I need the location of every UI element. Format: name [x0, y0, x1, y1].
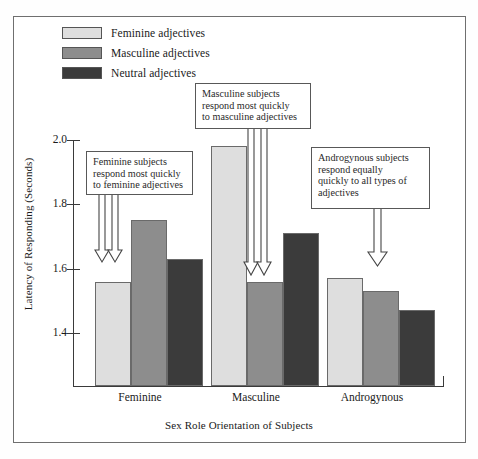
- arrow-feminine-left: [95, 193, 109, 262]
- plot-area: 2.0 1.8 1.6 1.4 Feminine Masculine Andro…: [0, 0, 478, 459]
- arrow-feminine-right: [108, 193, 122, 262]
- arrow-masculine-left: [244, 128, 258, 275]
- callout-feminine: Feminine subjects respond most quickly t…: [86, 151, 193, 195]
- callout-androgynous: Androgynous subjects respond equally qui…: [311, 147, 430, 209]
- callout-androgynous-text: Androgynous subjects respond equally qui…: [318, 152, 423, 198]
- callout-feminine-text: Feminine subjects respond most quickly t…: [93, 156, 186, 191]
- chart-figure: Feminine adjectives Masculine adjectives…: [0, 0, 478, 459]
- callout-masculine: Masculine subjects respond most quickly …: [195, 83, 311, 129]
- callout-masculine-text: Masculine subjects respond most quickly …: [202, 88, 304, 123]
- callout-arrows: [0, 0, 478, 459]
- arrow-masculine-right: [257, 128, 271, 275]
- arrow-androgynous: [368, 208, 387, 266]
